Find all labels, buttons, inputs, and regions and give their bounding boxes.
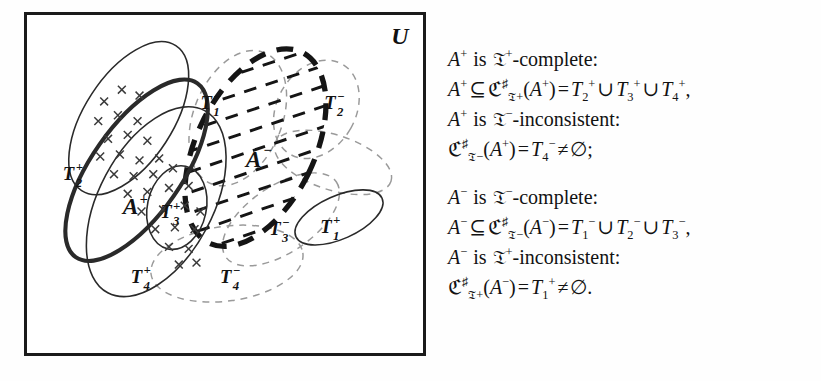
plus-superscript: + — [506, 245, 513, 259]
svg-text:+: + — [143, 263, 150, 277]
label-a-plus: A + — [121, 191, 148, 220]
statement-line-2: A+⊆ℭ♯𝔗+(A+)=T2+∪T3+∪T4+, — [448, 74, 810, 104]
plus-superscript: + — [460, 47, 467, 61]
svg-text:−: − — [337, 90, 345, 104]
comma: , — [686, 216, 691, 238]
label-t3-plus: T 3 + — [160, 199, 180, 229]
minus-superscript: − — [460, 185, 467, 199]
A-symbol: A — [448, 48, 460, 70]
rparen: ) — [549, 78, 556, 100]
label-t3-minus: T 3 − — [269, 216, 290, 245]
equals-operator: = — [556, 216, 571, 238]
svg-text:−: − — [213, 90, 221, 104]
cup-operator: ∪ — [595, 216, 616, 238]
a-plus-statement-block: A+is𝔗+-complete: A+⊆ℭ♯𝔗+(A+)=T2+∪T3+∪T4+… — [448, 44, 810, 164]
index-3: 3 — [627, 90, 633, 104]
emptyset-symbol: ∅ — [570, 276, 587, 298]
universe-label: U — [391, 23, 409, 50]
svg-text:−: − — [263, 143, 272, 159]
svg-text:2: 2 — [336, 105, 344, 119]
statement-line-3: A+is𝔗−-inconsistent: — [448, 104, 810, 134]
subseteq-operator: ⊆ — [467, 216, 488, 238]
index-1: 1 — [542, 288, 548, 302]
index-2: 2 — [627, 228, 633, 242]
index-3: 3 — [672, 228, 678, 242]
T-fraktur: 𝔗 — [493, 245, 506, 269]
plus-superscript: + — [679, 77, 686, 91]
svg-text:4: 4 — [232, 279, 239, 293]
minus-superscript: − — [506, 185, 513, 199]
venn-diagram-svg: T 2 + A + T 3 + T 4 + T 4 − — [27, 15, 423, 353]
svg-text:−: − — [282, 216, 290, 230]
statement-line-6: A−⊆ℭ♯𝔗−(A−)=T1−∪T2−∪T3−, — [448, 212, 810, 242]
A-symbol: A — [448, 186, 460, 208]
equals-operator: = — [516, 276, 531, 298]
index-1: 1 — [582, 228, 588, 242]
comma: , — [686, 78, 691, 100]
svg-text:T: T — [220, 266, 232, 287]
svg-text:T: T — [131, 266, 143, 287]
inconsistent-word: -inconsistent: — [513, 246, 621, 268]
plus-superscript: + — [460, 107, 467, 121]
rparen: ) — [509, 276, 516, 298]
cup-operator: ∪ — [640, 78, 661, 100]
neq-operator: ≠ — [555, 138, 570, 160]
C-fraktur: ℭ — [448, 137, 462, 161]
lparen: ( — [483, 276, 490, 298]
statement-line-1: A+is𝔗+-complete: — [448, 44, 810, 74]
svg-text:+: + — [173, 199, 180, 213]
rparen: ) — [509, 138, 516, 160]
a-minus-statement-block: A−is𝔗−-complete: A−⊆ℭ♯𝔗−(A−)=T1−∪T2−∪T3−… — [448, 182, 810, 302]
is-word: is — [473, 48, 486, 70]
T-symbol: T — [531, 276, 542, 298]
svg-text:1: 1 — [333, 229, 339, 243]
svg-text:−: − — [233, 264, 241, 278]
svg-text:1: 1 — [213, 105, 219, 119]
T-fraktur-subscript: 𝔗 — [508, 90, 516, 104]
T-symbol: T — [531, 138, 542, 160]
T-fraktur-subscript: 𝔗 — [508, 228, 516, 242]
label-a-minus: A − — [244, 143, 273, 173]
svg-text:4: 4 — [142, 279, 149, 293]
universe-box: T 2 + A + T 3 + T 4 + T 4 − — [24, 12, 426, 356]
svg-text:A: A — [244, 146, 262, 172]
svg-text:3: 3 — [172, 214, 180, 228]
lparen: ( — [523, 216, 530, 238]
T-fraktur-subscript: 𝔗 — [468, 150, 476, 164]
statement-line-7: A−is𝔗+-inconsistent: — [448, 242, 810, 272]
subseteq-operator: ⊆ — [467, 78, 488, 100]
is-word: is — [473, 186, 486, 208]
A-symbol: A — [530, 78, 542, 100]
A-symbol: A — [448, 108, 460, 130]
label-t2-plus: T 2 + — [63, 160, 83, 190]
statement-line-4: ℭ♯𝔗−(A+)=T4−≠∅; — [448, 134, 810, 164]
index-2: 2 — [582, 90, 588, 104]
inconsistent-word: -inconsistent: — [513, 108, 621, 130]
A-symbol: A — [490, 276, 502, 298]
statement-line-8: ℭ♯𝔗+(A−)=T1+≠∅. — [448, 272, 810, 302]
label-t1-plus: T 1 + — [320, 213, 340, 243]
complete-word: -complete: — [513, 48, 599, 70]
T-symbol: T — [661, 216, 672, 238]
semicolon: ; — [587, 138, 593, 160]
math-text-panel: A+is𝔗+-complete: A+⊆ℭ♯𝔗+(A+)=T2+∪T3+∪T4+… — [448, 44, 810, 302]
neq-operator: ≠ — [555, 276, 570, 298]
is-word: is — [473, 246, 486, 268]
C-fraktur: ℭ — [448, 275, 462, 299]
lparen: ( — [523, 78, 530, 100]
minus-superscript: − — [460, 245, 467, 259]
svg-text:+: + — [76, 160, 83, 174]
equals-operator: = — [516, 138, 531, 160]
equals-operator: = — [556, 78, 571, 100]
period: . — [587, 276, 592, 298]
minus-superscript: − — [679, 215, 686, 229]
T-symbol: T — [616, 216, 627, 238]
svg-text:T: T — [320, 216, 332, 237]
label-t4-minus: T 4 − — [220, 264, 241, 293]
T-symbol: T — [616, 78, 627, 100]
svg-text:T: T — [160, 201, 172, 222]
is-word: is — [473, 108, 486, 130]
T-fraktur: 𝔗 — [493, 107, 506, 131]
T-fraktur: 𝔗 — [493, 47, 506, 71]
figure-root: T 2 + A + T 3 + T 4 + T 4 − — [0, 0, 821, 381]
